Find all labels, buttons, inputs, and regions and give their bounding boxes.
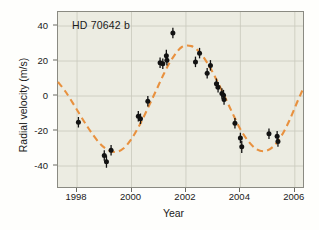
x-axis-tick-mark	[185, 188, 186, 192]
y-axis-tick-label: 20	[0, 55, 48, 66]
x-axis-tick-label: 2004	[229, 191, 250, 202]
x-axis-tick-mark	[76, 188, 77, 192]
y-axis-tick-label: -40	[0, 160, 48, 171]
x-axis-label: Year	[0, 207, 319, 219]
y-axis-tick-label: -20	[0, 125, 48, 136]
x-axis-tick-label: 2002	[174, 191, 195, 202]
x-axis-tick-mark	[239, 188, 240, 192]
y-axis-tick-layer: 40200-20-40	[0, 0, 52, 230]
chart-figure: Radial velocity (m/s) 40200-20-40 HD 706…	[0, 0, 319, 230]
plot-area	[57, 11, 304, 188]
data-points-layer	[58, 12, 303, 187]
y-axis-tick-label: 0	[0, 90, 48, 101]
x-axis-tick-mark	[131, 188, 132, 192]
x-axis-tick-mark	[294, 188, 295, 192]
x-axis-tick-label: 2000	[120, 191, 141, 202]
x-axis-label-text: Year	[163, 207, 184, 219]
series-title: HD 70642 b	[72, 19, 130, 31]
x-axis-tick-label: 1998	[65, 191, 86, 202]
x-axis-tick-label: 2006	[283, 191, 304, 202]
y-axis-tick-label: 40	[0, 20, 48, 31]
